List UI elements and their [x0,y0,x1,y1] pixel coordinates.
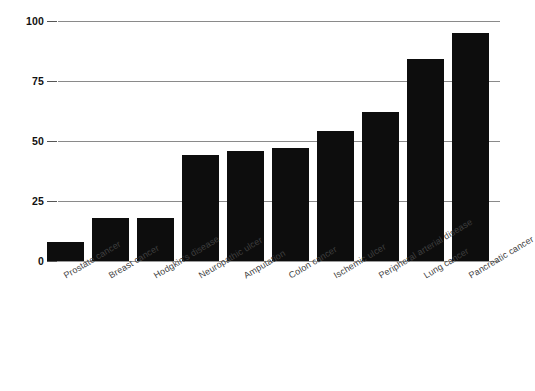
x-axis-label: Colon cancer [287,244,339,281]
x-axis-label: Amputation [242,248,287,281]
x-axis-label: Pancreatic cancer [467,234,535,281]
